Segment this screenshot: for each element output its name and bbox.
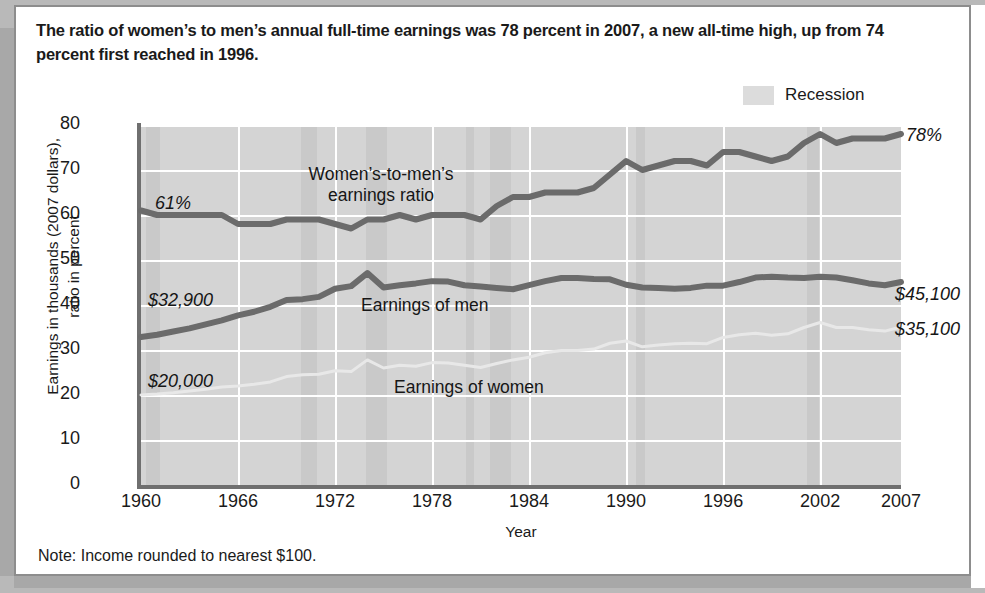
gridline-vertical bbox=[901, 125, 903, 485]
x-axis-tick-label: 1972 bbox=[290, 491, 380, 512]
x-axis-tick-label: 1966 bbox=[193, 491, 283, 512]
line-earnings-of-men bbox=[141, 273, 901, 337]
x-axis-tick-label: 2002 bbox=[775, 491, 865, 512]
annotation-ratio-end: 78% bbox=[906, 125, 942, 146]
x-axis-tick-label: 2007 bbox=[856, 491, 946, 512]
legend-label-recession: Recession bbox=[785, 85, 864, 105]
figure-headline: The ratio of women’s to men’s annual ful… bbox=[36, 19, 941, 67]
annotation-ratio-start: 61% bbox=[155, 193, 191, 214]
y-axis-tick-label: 50 bbox=[20, 248, 80, 269]
annotation-men-end: $45,100 bbox=[895, 284, 960, 305]
annotation-series-ratio-line2: earnings ratio bbox=[328, 185, 434, 205]
frame-shadow-bottom bbox=[14, 576, 971, 588]
y-axis-tick-label: 0 bbox=[20, 473, 80, 494]
annotation-women-end: $35,100 bbox=[895, 319, 960, 340]
annotation-women-start: $20,000 bbox=[148, 371, 213, 392]
x-axis-tick-label: 1960 bbox=[96, 491, 186, 512]
plot-area bbox=[141, 125, 901, 485]
frame-shadow-right bbox=[971, 5, 985, 588]
annotation-series-ratio-line1: Women’s-to-men’s bbox=[309, 164, 454, 184]
legend: Recession bbox=[743, 85, 864, 105]
x-axis-line bbox=[137, 485, 901, 489]
annotation-series-men: Earnings of men bbox=[361, 295, 488, 316]
y-axis-tick-label: 70 bbox=[20, 158, 80, 179]
figure-note: Note: Income rounded to nearest $100. bbox=[38, 547, 316, 565]
frame-shadow-left bbox=[0, 28, 14, 576]
series-layer bbox=[141, 125, 901, 485]
x-axis-title: Year bbox=[141, 523, 901, 541]
x-axis-tick-label: 1996 bbox=[678, 491, 768, 512]
y-axis-tick-label: 30 bbox=[20, 338, 80, 359]
recession-swatch-icon bbox=[743, 86, 774, 105]
annotation-series-ratio: Women’s-to-men’s earnings ratio bbox=[281, 164, 481, 207]
y-axis-tick-label: 40 bbox=[20, 293, 80, 314]
y-axis-tick-label: 60 bbox=[20, 203, 80, 224]
page-frame: The ratio of women’s to men’s annual ful… bbox=[0, 0, 985, 593]
annotation-series-women: Earnings of women bbox=[394, 377, 544, 398]
y-axis-tick-label: 80 bbox=[20, 113, 80, 134]
annotation-men-start: $32,900 bbox=[148, 290, 213, 311]
y-axis-tick-label: 10 bbox=[20, 428, 80, 449]
x-axis-tick-label: 1978 bbox=[387, 491, 477, 512]
x-axis-tick-label: 1984 bbox=[484, 491, 574, 512]
figure-card: The ratio of women’s to men’s annual ful… bbox=[14, 5, 971, 576]
x-axis-tick-label: 1990 bbox=[581, 491, 671, 512]
line-womens-to-mens-ratio bbox=[141, 134, 901, 229]
y-axis-tick-label: 20 bbox=[20, 383, 80, 404]
